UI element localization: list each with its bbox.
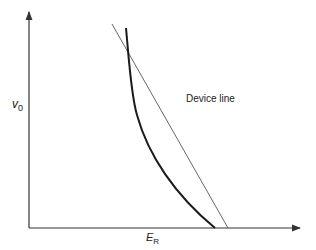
device-line-label: Device line [186,93,235,104]
characteristic-curve [126,28,215,228]
x-axis-label: ER [146,231,159,246]
diagram-svg [0,0,316,250]
device-line [112,24,228,228]
y-axis-label: v0 [12,97,23,113]
diagram-canvas: v0 ER Device line [0,0,316,250]
